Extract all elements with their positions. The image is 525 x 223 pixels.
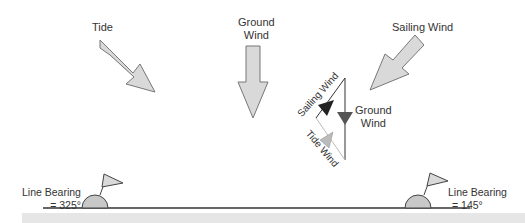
- vector-ground-wind-line2: Wind: [355, 117, 392, 130]
- tide-arrow: [100, 40, 155, 92]
- ground-wind-arrow: [238, 46, 268, 118]
- right-bearing-label: Line Bearing = 145°: [448, 186, 507, 212]
- right-bearing-line2: = 145°: [448, 199, 507, 212]
- ground-wind-label-line2: Wind: [238, 29, 275, 42]
- right-buoy: [405, 173, 448, 208]
- ground-wind-label: Ground Wind: [238, 16, 275, 42]
- sailing-wind-arrow: [370, 35, 424, 90]
- left-buoy: [82, 174, 123, 208]
- sailing-wind-label: Sailing Wind: [392, 21, 453, 34]
- vector-ground-wind-label: Ground Wind: [355, 104, 392, 130]
- ground-wind-label-line1: Ground: [238, 16, 275, 29]
- vector-ground-wind-line1: Ground: [355, 104, 392, 117]
- tide-label: Tide: [92, 21, 113, 34]
- right-bearing-line1: Line Bearing: [448, 186, 507, 199]
- ground-bar: [22, 213, 525, 223]
- left-bearing-line2: = 325°: [22, 199, 81, 212]
- left-bearing-label: Line Bearing = 325°: [22, 186, 81, 212]
- left-bearing-line1: Line Bearing: [22, 186, 81, 199]
